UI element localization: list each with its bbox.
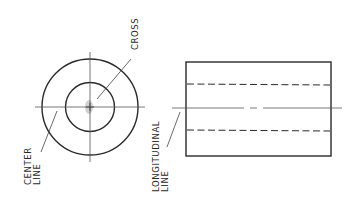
- longitudinal-line-label-2: LINE: [160, 171, 170, 192]
- hidden-line-top: [187, 84, 330, 85]
- longitudinal-line-leader: [167, 112, 180, 147]
- hidden-line-bottom: [187, 130, 330, 131]
- end-view: [35, 52, 145, 162]
- technical-drawing: CROSS CENTER LINE LONGITUDINAL LINE: [0, 0, 347, 203]
- center-line-callout: CENTER LINE: [23, 111, 57, 185]
- side-view-outline: [186, 62, 331, 156]
- cross-label: CROSS: [130, 18, 140, 50]
- center-line-label-2: LINE: [32, 164, 42, 185]
- longitudinal-line-callout: LONGITUDINAL LINE: [151, 112, 180, 192]
- side-view: [172, 62, 342, 156]
